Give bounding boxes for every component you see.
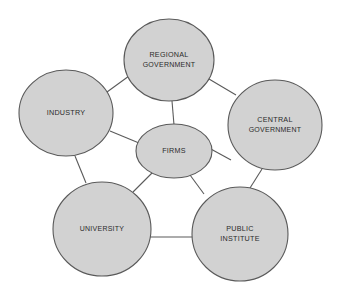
node-label-regional-government: REGIONAL	[149, 50, 188, 59]
node-label-firms: FIRMS	[162, 146, 186, 155]
node-public-institute[interactable]: PUBLICINSTITUTE	[192, 187, 288, 281]
node-label-central-government: GOVERNMENT	[249, 126, 302, 133]
edge-industry--firms	[110, 131, 139, 143]
edge-firms--public-institute	[190, 175, 204, 194]
edge-regional-government--firms	[172, 101, 174, 125]
edge-regional-government--central-government	[209, 79, 236, 95]
node-layer: REGIONALGOVERNMENTINDUSTRYCENTRALGOVERNM…	[19, 19, 322, 281]
node-regional-government[interactable]: REGIONALGOVERNMENT	[124, 19, 214, 101]
node-label-public-institute: INSTITUTE	[220, 234, 259, 243]
edge-firms--university	[133, 173, 152, 192]
node-label-university: UNIVERSITY	[80, 225, 125, 232]
node-central-government[interactable]: CENTRALGOVERNMENT	[228, 80, 322, 170]
node-industry[interactable]: INDUSTRY	[19, 70, 113, 156]
node-label-regional-government: GOVERNMENT	[143, 61, 196, 68]
node-university[interactable]: UNIVERSITY	[53, 182, 151, 276]
network-diagram: REGIONALGOVERNMENTINDUSTRYCENTRALGOVERNM…	[0, 0, 341, 295]
edge-central-government--public-institute	[250, 169, 262, 188]
diagram-canvas: REGIONALGOVERNMENTINDUSTRYCENTRALGOVERNM…	[0, 0, 341, 295]
node-label-central-government: CENTRAL	[257, 115, 292, 124]
node-label-industry: INDUSTRY	[47, 108, 86, 117]
node-firms[interactable]: FIRMS	[136, 124, 212, 178]
node-label-public-institute: PUBLIC	[226, 224, 253, 233]
edge-industry--university	[75, 156, 86, 183]
edge-industry--regional-government	[107, 76, 129, 92]
